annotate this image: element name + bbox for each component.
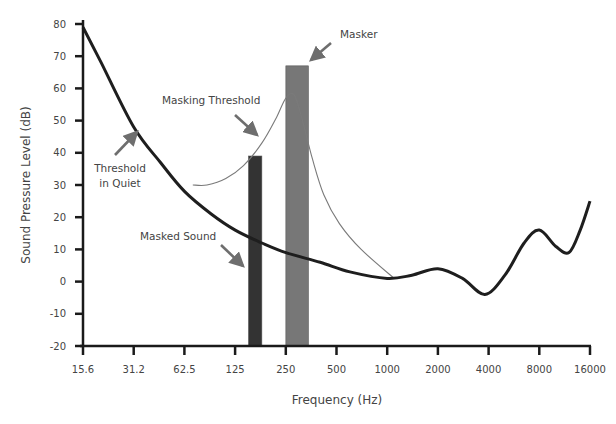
masked-sound-bar	[249, 156, 262, 346]
y-tick-label: 60	[53, 83, 66, 94]
y-tick-label: 70	[53, 51, 66, 62]
y-tick-label: 10	[53, 244, 66, 255]
masking-threshold-label: Masking Threshold	[162, 94, 260, 106]
masking-chart: Sound Pressure Level (dB) Frequency (Hz)…	[0, 0, 616, 424]
masking-threshold-arrow-icon	[235, 115, 257, 135]
annotation-threshold-quiet: Threshold in Quiet	[93, 132, 146, 189]
threshold-in-quiet-curve	[83, 27, 590, 294]
threshold-quiet-label-line2: in Quiet	[99, 177, 140, 189]
x-tick-label: 125	[226, 364, 245, 375]
annotation-masker: Masker	[311, 28, 378, 60]
x-tick-label: 500	[327, 364, 346, 375]
annotation-masked-sound: Masked Sound	[140, 230, 243, 266]
masker-label: Masker	[340, 28, 378, 40]
threshold-quiet-label-line1: Threshold	[93, 162, 146, 174]
y-tick-label: 0	[60, 276, 66, 287]
y-tick-label: 40	[53, 147, 66, 158]
x-tick-label: 1000	[374, 364, 399, 375]
y-axis-title: Sound Pressure Level (dB)	[19, 106, 33, 263]
x-tick-label: 2000	[425, 364, 450, 375]
x-axis-title: Frequency (Hz)	[292, 393, 383, 407]
x-tick-label: 250	[276, 364, 295, 375]
x-axis-ticks: 15.631.262.51252505001000200040008000160…	[72, 346, 606, 375]
masked-sound-arrow-icon	[221, 245, 243, 266]
masked-sound-label: Masked Sound	[140, 230, 216, 242]
x-tick-label: 16000	[574, 364, 606, 375]
annotation-masking-threshold: Masking Threshold	[162, 94, 260, 135]
y-tick-label: 20	[53, 212, 66, 223]
masker-arrow-icon	[311, 43, 331, 60]
x-tick-label: 15.6	[72, 364, 94, 375]
y-tick-label: 80	[53, 19, 66, 30]
x-tick-label: 62.5	[173, 364, 195, 375]
y-tick-label: 50	[53, 115, 66, 126]
masker-bar	[286, 66, 308, 346]
y-tick-label: -20	[50, 341, 66, 352]
x-tick-label: 31.2	[123, 364, 145, 375]
threshold-quiet-arrow-icon	[115, 132, 137, 155]
y-axis-ticks: 80706050403020100-10-20	[50, 19, 83, 352]
x-tick-label: 4000	[476, 364, 501, 375]
x-tick-label: 8000	[527, 364, 552, 375]
y-tick-label: -10	[50, 308, 66, 319]
y-tick-label: 30	[53, 180, 66, 191]
